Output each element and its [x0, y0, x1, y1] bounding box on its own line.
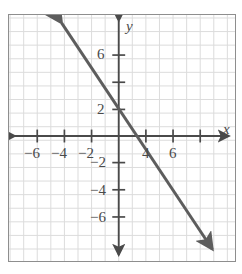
y-axis-label: y: [126, 19, 133, 34]
y-tick-label-pos2: 2: [97, 102, 105, 117]
y-tick-label-pos6: 6: [97, 47, 105, 62]
coordinate-plane-figure: −6 −4 −2 4 6 6 2 −2 −4 −6 x y: [0, 0, 242, 274]
x-tick-label-pos6: 6: [169, 146, 177, 161]
x-tick-label-pos4: 4: [142, 146, 150, 161]
x-tick-label-neg6: −6: [24, 146, 40, 161]
plotted-line: [9, 15, 235, 261]
plot-frame: [8, 14, 236, 262]
y-tick-label-neg6: −6: [90, 210, 106, 225]
x-axis-label: x: [223, 122, 230, 137]
y-tick-label-neg4: −4: [90, 183, 106, 198]
x-tick-label-neg4: −4: [51, 146, 67, 161]
y-tick-label-neg2: −2: [90, 155, 106, 170]
